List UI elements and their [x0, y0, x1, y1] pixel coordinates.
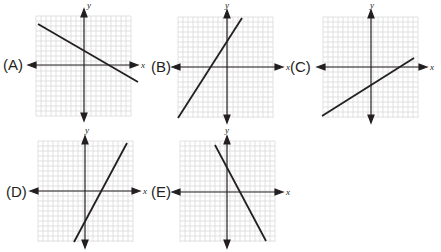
- y-axis-label: y: [84, 125, 89, 135]
- graph-line: [215, 145, 266, 241]
- graph-option-d: (D) x y: [0, 125, 150, 252]
- graph-option-c: (C) x y: [290, 0, 441, 125]
- y-axis-label: y: [224, 125, 229, 135]
- graph-line: [74, 143, 127, 242]
- coordinate-plane-d: x y: [0, 125, 150, 252]
- y-axis-label: y: [224, 0, 229, 10]
- coordinate-plane-a: x y: [0, 0, 150, 125]
- x-axis-label: x: [285, 187, 290, 197]
- coordinate-plane-e: x y: [145, 125, 295, 252]
- graph-option-e: (E) x y: [145, 125, 295, 252]
- y-axis-label: y: [86, 0, 91, 10]
- graph-line: [38, 24, 138, 82]
- graph-option-b: (B) x y: [145, 0, 295, 125]
- graph-option-a: (A) x y: [0, 0, 150, 125]
- coordinate-plane-b: x y: [145, 0, 295, 125]
- x-axis-label: x: [429, 62, 434, 72]
- coordinate-plane-c: x y: [290, 0, 441, 125]
- y-axis-label: y: [369, 0, 374, 10]
